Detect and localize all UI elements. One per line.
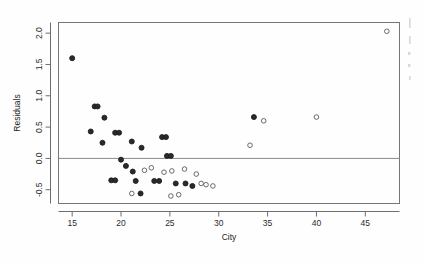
data-point bbox=[142, 168, 147, 173]
data-point bbox=[100, 140, 105, 145]
data-point bbox=[152, 178, 157, 183]
data-point bbox=[70, 56, 75, 61]
data-point bbox=[190, 183, 195, 188]
data-point bbox=[102, 115, 107, 120]
data-point bbox=[385, 29, 390, 34]
data-point bbox=[130, 169, 135, 174]
data-point bbox=[204, 182, 209, 187]
data-point bbox=[129, 191, 134, 196]
data-points-layer bbox=[70, 29, 389, 198]
data-point bbox=[95, 104, 100, 109]
data-point bbox=[149, 166, 154, 171]
y-tick-label: 1.5 bbox=[34, 58, 44, 70]
data-point bbox=[173, 181, 178, 186]
data-point bbox=[169, 194, 174, 199]
y-axis-tick-labels: -0.50.00.51.01.52.0 bbox=[34, 27, 44, 197]
data-point bbox=[123, 163, 128, 168]
x-tick-label: 45 bbox=[361, 218, 371, 228]
plot-frame bbox=[59, 23, 400, 204]
data-point bbox=[117, 130, 122, 135]
x-tick-label: 35 bbox=[263, 218, 273, 228]
y-tick-label: 1.0 bbox=[34, 90, 44, 102]
residual-plot-figure: 15202530354045 -0.50.00.51.01.52.0 City … bbox=[0, 0, 423, 264]
data-point bbox=[113, 178, 118, 183]
x-tick-label: 30 bbox=[214, 218, 224, 228]
y-tick-label: 2.0 bbox=[34, 27, 44, 39]
x-tick-label: 20 bbox=[116, 218, 126, 228]
y-tick-label: -0.5 bbox=[34, 182, 44, 197]
x-axis-tick-labels: 15202530354045 bbox=[67, 218, 370, 228]
data-point bbox=[199, 181, 204, 186]
data-point bbox=[139, 145, 144, 150]
data-point bbox=[157, 178, 162, 183]
scan-noise-artifacts bbox=[408, 18, 411, 80]
x-tick-label: 40 bbox=[312, 218, 322, 228]
data-point bbox=[314, 115, 319, 120]
data-point bbox=[170, 169, 175, 174]
data-point bbox=[183, 181, 188, 186]
data-point bbox=[211, 184, 216, 189]
x-axis-ticks bbox=[72, 212, 365, 217]
data-point bbox=[163, 135, 168, 140]
data-point bbox=[129, 139, 134, 144]
data-point bbox=[182, 167, 187, 172]
x-axis-title: City bbox=[222, 232, 237, 242]
y-axis-ticks bbox=[46, 33, 51, 190]
y-axis-title: Residuals bbox=[12, 94, 22, 131]
y-tick-label: 0.0 bbox=[34, 152, 44, 164]
y-tick-label: 0.5 bbox=[34, 121, 44, 133]
data-point bbox=[261, 119, 266, 124]
data-point bbox=[251, 115, 256, 120]
data-point bbox=[176, 192, 181, 197]
data-point bbox=[248, 143, 253, 148]
data-point bbox=[138, 191, 143, 196]
x-tick-label: 15 bbox=[67, 218, 77, 228]
data-point bbox=[168, 153, 173, 158]
data-point bbox=[133, 178, 138, 183]
data-point bbox=[88, 129, 93, 134]
data-point bbox=[162, 170, 167, 175]
data-point bbox=[119, 157, 124, 162]
scatter-plot-canvas: 15202530354045 -0.50.00.51.01.52.0 City … bbox=[0, 0, 423, 264]
x-tick-label: 25 bbox=[165, 218, 175, 228]
data-point bbox=[194, 172, 199, 177]
